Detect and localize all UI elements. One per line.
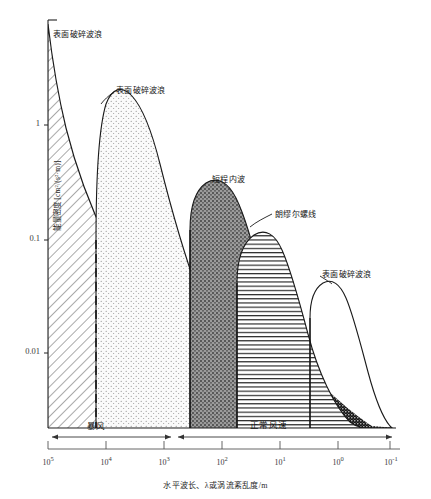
curve-label-surface-breaking-waves-1: 表面破碎波浪 (53, 28, 103, 39)
y-tick-label: 0.01 (11, 346, 40, 356)
x-tick-label: 105 (33, 455, 63, 467)
x-tick-exponent: 5 (50, 455, 53, 462)
x-tick-exponent: 0 (340, 455, 343, 462)
x-tick-label: 103 (149, 455, 179, 467)
x-tick-label: 10-1 (376, 455, 406, 467)
x-tick-exponent: 2 (224, 455, 227, 462)
energy-spectrum-figure: 能量密度 [cm²/(s²·m)] 1 0.1 0.01 105 104 103… (0, 0, 431, 499)
spectrum-bands (48, 24, 396, 428)
x-tick-label: 100 (323, 455, 353, 467)
x-tick-exponent: 4 (108, 455, 111, 462)
x-tick-exponent: 3 (166, 455, 169, 462)
chart-canvas (0, 0, 431, 499)
x-axis-label: 水平波长、λ或涡流紊乱度/m (0, 479, 431, 490)
curve-label-langmuir-circulation: 朗缪尔螺线 (275, 208, 317, 219)
wind-regime-arrows (52, 434, 392, 439)
curve-label-surface-breaking-waves-2: 表面破碎波浪 (116, 84, 166, 95)
curve-label-surface-breaking-waves-3: 表面破碎波浪 (322, 268, 372, 279)
x-scale-axis (48, 441, 400, 449)
x-tick-exponent: -1 (392, 455, 397, 462)
x-tick-label: 101 (265, 455, 295, 467)
x-tick-label: 104 (91, 455, 121, 467)
x-tick-label: 102 (207, 455, 237, 467)
x-tick-exponent: 1 (282, 455, 285, 462)
curve-label-short-internal-waves: 短程内波 (212, 173, 245, 184)
y-axis-label: 能量密度 [cm²/(s²·m)] (51, 136, 62, 256)
y-tick-label: 1 (16, 118, 40, 128)
wind-regime-label-normal-wind: 正常风速 (250, 418, 288, 430)
band-langmuir-circulation (237, 232, 372, 428)
wind-regime-label-storm: 暴风 (87, 419, 106, 431)
y-tick-label: 0.1 (16, 233, 40, 243)
